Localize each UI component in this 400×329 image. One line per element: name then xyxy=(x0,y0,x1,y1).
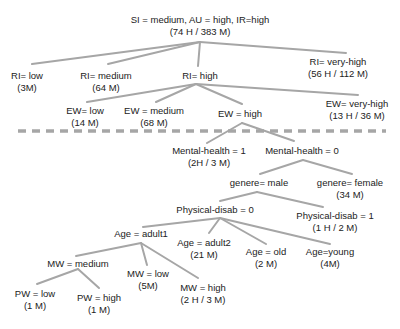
node-count: (3M) xyxy=(11,82,43,94)
node-label: EW= very-high xyxy=(326,98,389,110)
node-count: (5M) xyxy=(127,280,169,292)
node-count: (2 M) xyxy=(246,258,286,270)
node-label: RI= low xyxy=(11,70,43,82)
node-label: genere= male xyxy=(230,177,288,189)
node-label: MW = low xyxy=(127,268,169,280)
edge-pd-0-age-adult2 xyxy=(209,218,220,233)
edge-mh-0-gen-male xyxy=(260,160,303,174)
node-age-adult2: Age = adult2 (21 M) xyxy=(177,237,231,261)
node-ew-medium: EW = medium (68 M) xyxy=(124,105,184,129)
node-mental-health-1: Mental-health = 1 (2H / 3 M) xyxy=(172,145,246,169)
node-label: SI = medium, AU = high, IR=high xyxy=(131,14,270,26)
node-root: SI = medium, AU = high, IR=high (74 H / … xyxy=(131,14,270,38)
node-count: (4M) xyxy=(306,258,354,270)
node-label: genere= female xyxy=(317,177,383,189)
node-age-young: Age=young (4M) xyxy=(306,246,354,270)
node-count: (34 M) xyxy=(317,189,383,201)
edge-mw-medium-pw-high xyxy=(78,269,99,288)
node-ew-very-high: EW= very-high (13 H / 36 M) xyxy=(326,98,389,122)
node-label: EW = high xyxy=(218,108,262,120)
edge-gen-male-pd-0 xyxy=(220,192,257,201)
node-age-adult1: Age = adult1 xyxy=(114,228,168,240)
node-count: (1 H / 2 M) xyxy=(296,222,373,234)
node-ri-high: RI= high xyxy=(182,70,218,82)
edge-root-ri-low xyxy=(32,42,200,64)
node-age-old: Age = old (2 M) xyxy=(246,246,286,270)
node-mw-low: MW = low (5M) xyxy=(127,268,169,292)
edge-ri-high-ew-very-high xyxy=(196,84,358,95)
edge-root-ri-high xyxy=(198,42,200,66)
node-genere-female: genere= female (34 M) xyxy=(317,177,383,201)
node-label: MW = medium xyxy=(47,258,109,270)
node-label: MW = high xyxy=(180,282,226,294)
node-count: (1 M) xyxy=(77,304,121,316)
node-label: Age = old xyxy=(246,246,286,258)
node-label: Mental-health = 0 xyxy=(265,145,339,157)
node-physical-disab-0: Physical-disab = 0 xyxy=(176,204,253,216)
node-label: EW = medium xyxy=(124,105,184,117)
node-count: (1 M) xyxy=(15,300,55,312)
node-count: (13 H / 36 M) xyxy=(326,110,389,122)
node-ri-low: RI= low (3M) xyxy=(11,70,43,94)
edge-mh-0-gen-female xyxy=(303,160,352,174)
node-mw-high: MW = high (2 H / 3 M) xyxy=(180,282,226,306)
node-count: (2H / 3 M) xyxy=(172,157,246,169)
node-count: (2 H / 3 M) xyxy=(180,294,226,306)
node-count: (74 H / 383 M) xyxy=(131,26,270,38)
node-count: (21 M) xyxy=(177,249,231,261)
node-label: Age=young xyxy=(306,246,354,258)
node-label: Age = adult1 xyxy=(114,228,168,240)
node-label: RI= high xyxy=(182,70,218,82)
edge-age-adult1-mw-medium xyxy=(76,243,141,256)
node-count: (64 M) xyxy=(80,82,131,94)
node-label: PW = high xyxy=(77,292,121,304)
node-count: (56 H / 112 M) xyxy=(308,68,368,80)
node-pw-high: PW = high (1 M) xyxy=(77,292,121,316)
node-label: RI= medium xyxy=(80,70,131,82)
node-count: (14 M) xyxy=(66,117,104,129)
node-label: Age = adult2 xyxy=(177,237,231,249)
node-count: (68 M) xyxy=(124,117,184,129)
edge-ew-high-mh-1 xyxy=(207,123,242,143)
node-genere-male: genere= male xyxy=(230,177,288,189)
node-ew-high: EW = high xyxy=(218,108,262,120)
node-mental-health-0: Mental-health = 0 xyxy=(265,145,339,157)
node-label: PW = low xyxy=(15,288,55,300)
node-mw-medium: MW = medium xyxy=(47,258,109,270)
edge-mw-medium-pw-low xyxy=(37,269,78,284)
node-pw-low: PW = low (1 M) xyxy=(15,288,55,312)
node-ri-medium: RI= medium (64 M) xyxy=(80,70,131,94)
node-label: Physical-disab = 0 xyxy=(176,204,253,216)
edge-gen-male-pd-1 xyxy=(257,192,323,207)
edge-root-ri-very-high xyxy=(200,42,346,53)
node-label: Physical-disab = 1 xyxy=(296,210,373,222)
node-label: EW= low xyxy=(66,105,104,117)
edge-pd-0-age-adult1 xyxy=(143,218,220,227)
node-ew-low: EW= low (14 M) xyxy=(66,105,104,129)
node-label: Mental-health = 1 xyxy=(172,145,246,157)
node-ri-very-high: RI= very-high (56 H / 112 M) xyxy=(308,56,368,80)
node-label: RI= very-high xyxy=(308,56,368,68)
node-physical-disab-1: Physical-disab = 1 (1 H / 2 M) xyxy=(296,210,373,234)
